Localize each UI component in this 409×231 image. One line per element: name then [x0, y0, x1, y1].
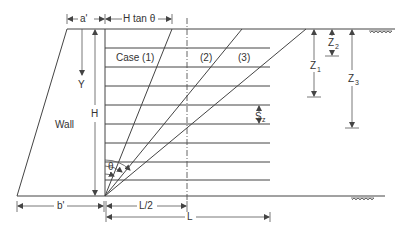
a-prime-label: a' — [80, 13, 88, 24]
z3-label: Z — [348, 73, 354, 84]
h-tan-theta-label: H tan θ — [123, 13, 156, 24]
case3-label: (3) — [238, 52, 250, 63]
ground-hatch-bottom — [351, 198, 374, 200]
z1-label: Z — [310, 60, 316, 71]
b-prime-label: b' — [57, 200, 65, 211]
wall-label: Wall — [55, 119, 74, 130]
z2-label: Z — [328, 37, 334, 48]
sz-subscript: z — [262, 116, 266, 123]
z1-subscript: 1 — [317, 66, 321, 73]
reinforcement-layers — [105, 48, 270, 180]
ground-hatch-top — [369, 31, 392, 33]
case2-label: (2) — [200, 52, 212, 63]
z3-subscript: 3 — [355, 79, 359, 86]
sz-label: S — [255, 111, 262, 122]
wall-back-face — [17, 29, 67, 196]
case1-label: Case (1) — [116, 52, 154, 63]
z2-subscript: 2 — [335, 43, 339, 50]
y-label: Y — [78, 79, 85, 90]
l-half-label: L/2 — [139, 200, 153, 211]
wall-diagram: θ a' H tan θ Y H Wall Case (1) (2) (3) S… — [0, 0, 409, 231]
theta-label: θ — [108, 161, 114, 172]
l-label: L — [187, 211, 193, 222]
h-label: H — [91, 108, 98, 119]
